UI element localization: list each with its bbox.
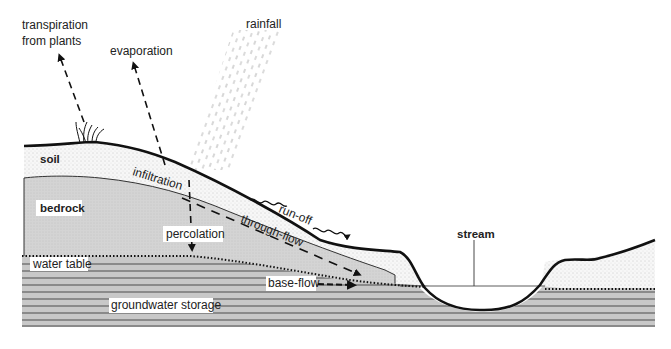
transpiration-arrow (60, 57, 84, 122)
label-water-table: water table (32, 257, 92, 271)
label-rainfall: rainfall (246, 17, 281, 31)
hydrology-diagram: transpiration from plants evaporation ra… (0, 0, 671, 349)
label-percolation: percolation (166, 227, 225, 241)
label-evaporation: evaporation (110, 44, 173, 58)
label-bedrock: bedrock (40, 202, 85, 214)
label-base-flow: base-flow (268, 276, 320, 290)
label-groundwater-storage: groundwater storage (111, 298, 221, 312)
label-from-plants: from plants (22, 34, 81, 48)
label-stream: stream (457, 228, 495, 240)
grass-icon (76, 122, 104, 143)
rainfall-band (188, 30, 282, 170)
label-soil: soil (40, 153, 60, 165)
label-transpiration: transpiration (22, 18, 88, 32)
